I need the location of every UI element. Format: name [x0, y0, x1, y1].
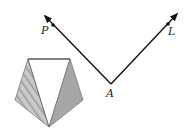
label-L: L	[167, 25, 175, 38]
point-P-dot	[51, 23, 55, 27]
label-P: P	[40, 24, 49, 37]
label-A: A	[105, 87, 114, 100]
angle-diagram: P L A	[0, 0, 184, 134]
pentagon-figure	[15, 59, 83, 127]
